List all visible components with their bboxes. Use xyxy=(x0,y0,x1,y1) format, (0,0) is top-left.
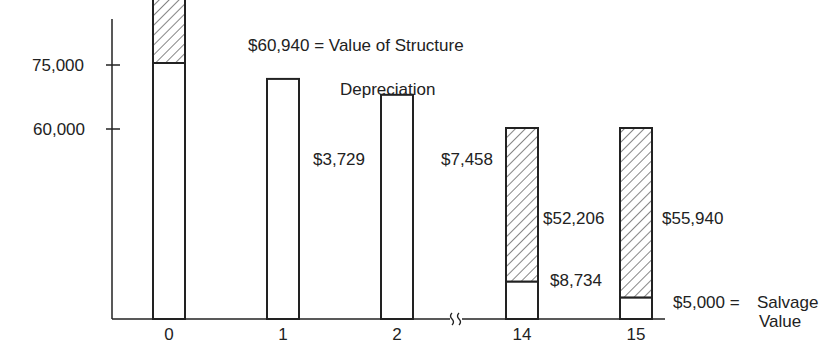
bar-remaining-2 xyxy=(381,95,413,319)
annotation-bar14-remaining: $8,734 xyxy=(550,271,602,291)
y-tick-label-75000: 75,000 xyxy=(32,56,84,76)
annotation-bar15-depreciation: $55,940 xyxy=(662,209,723,229)
bar-remaining-14 xyxy=(506,282,538,319)
annotation-bar14-depreciation-right: $52,206 xyxy=(543,209,604,229)
x-tick-label-1: 1 xyxy=(278,325,287,344)
bar-remaining-0 xyxy=(153,63,185,319)
x-tick-label-15: 15 xyxy=(627,325,646,344)
y-tick-label-60000: 60,000 xyxy=(33,120,85,140)
x-tick-label-14: 14 xyxy=(513,325,532,344)
x-tick-label-2: 2 xyxy=(392,325,401,344)
bar-depreciation-14 xyxy=(506,128,538,282)
annotation-depreciation: Depreciation xyxy=(340,80,435,100)
bar-remaining-1 xyxy=(267,79,299,319)
x-tick-label-0: 0 xyxy=(164,325,173,344)
annotation-bar2-depreciation: $3,729 xyxy=(313,150,365,170)
annotation-value-of-structure: $60,940 = Value of Structure xyxy=(248,36,464,56)
bar-remaining-15 xyxy=(620,298,652,319)
bar-depreciation-15 xyxy=(620,128,652,298)
annotation-salvage-amount: $5,000 = xyxy=(673,293,740,313)
axis-break-icon xyxy=(451,313,461,325)
annotation-bar14-depreciation-left: $7,458 xyxy=(441,150,493,170)
annotation-salvage-label-line1: Salvage xyxy=(757,293,818,313)
annotation-salvage-label-line2: Value xyxy=(759,312,801,332)
bar-depreciation-0 xyxy=(153,0,185,63)
